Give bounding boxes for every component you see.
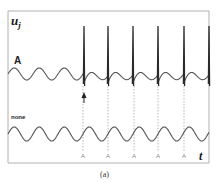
spike-line — [132, 26, 133, 86]
trace-a-label: A — [14, 56, 21, 66]
trace-none-label: none — [11, 114, 25, 120]
y-axis-subscript: j — [18, 20, 21, 30]
figure-panel: uj A none t (a) AAAAA — [0, 0, 218, 183]
stimulus-tick-label: A — [132, 153, 136, 159]
spike-line — [157, 26, 158, 86]
spike-line — [208, 26, 209, 86]
stimulus-dashed-lines — [83, 86, 184, 152]
stimulus-tick-label: A — [106, 153, 110, 159]
spike-line — [107, 26, 108, 86]
spike-line — [183, 26, 184, 86]
y-axis-label: uj — [11, 14, 21, 30]
x-axis-label: t — [199, 150, 202, 162]
stimulus-tick-label: A — [182, 153, 186, 159]
stimulus-arrow-icon — [82, 92, 87, 103]
figure-caption: (a) — [100, 171, 109, 179]
trace-none-waveform — [8, 127, 209, 141]
stimulus-tick-label: A — [81, 153, 85, 159]
stimulus-tick-label: A — [156, 153, 160, 159]
spike-line — [83, 26, 84, 86]
